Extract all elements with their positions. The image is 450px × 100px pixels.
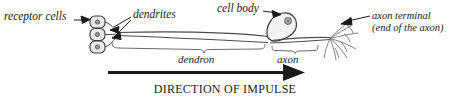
terminal-branch bbox=[330, 26, 351, 39]
impulse-arrowhead-icon bbox=[283, 64, 305, 81]
label-dendron: dendron bbox=[178, 53, 214, 65]
label-axon: axon bbox=[277, 53, 298, 65]
dendron-fiber bbox=[116, 32, 268, 43]
nucleolus-icon bbox=[287, 20, 289, 22]
label-receptor-cells: receptor cells bbox=[4, 10, 66, 23]
label-axon-terminal-line1: axon terminal bbox=[372, 10, 431, 21]
leader-arrowhead-axon-terminal bbox=[341, 18, 352, 26]
receptor-cell-bottom bbox=[90, 41, 105, 53]
receptor-cell-nucleus-icon bbox=[95, 32, 99, 36]
leader-arrowhead-dendrites-upper bbox=[110, 27, 119, 34]
label-axon-terminal-line2: (end of the axon) bbox=[372, 22, 443, 34]
cell-body-shape bbox=[267, 13, 296, 41]
label-axon-terminal: axon terminal (end of the axon) bbox=[372, 10, 443, 34]
cell-body-group bbox=[267, 13, 296, 41]
dendron-lower-edge bbox=[117, 36, 268, 43]
label-direction-of-impulse: DIRECTION OF IMPULSE bbox=[0, 82, 450, 97]
receptor-cells-group bbox=[90, 16, 105, 53]
terminal-branch bbox=[324, 39, 330, 59]
neuron-diagram-figure: receptor cells dendrites cell body axon … bbox=[0, 0, 450, 100]
receptor-cell-nucleus-icon bbox=[95, 45, 99, 49]
leader-arrowhead-dendrites-lower bbox=[112, 33, 121, 40]
receptor-cell-middle bbox=[90, 29, 105, 41]
axon-terminal-group bbox=[324, 20, 358, 60]
label-dendrites: dendrites bbox=[133, 8, 176, 21]
terminal-branch bbox=[330, 39, 336, 61]
brace-dendron bbox=[112, 42, 265, 53]
receptor-cell-top bbox=[90, 16, 105, 28]
braces-group bbox=[112, 42, 318, 54]
impulse-arrow-group bbox=[108, 64, 305, 81]
receptor-cell-nucleus-icon bbox=[95, 20, 99, 24]
label-cell-body: cell body bbox=[217, 2, 259, 15]
leader-arrowhead-receptor-cells bbox=[81, 16, 90, 24]
